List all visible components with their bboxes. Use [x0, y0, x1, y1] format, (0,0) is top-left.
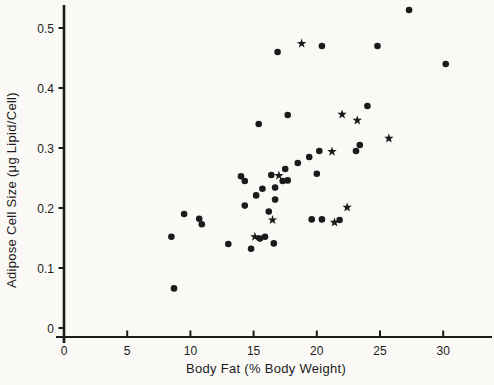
y-axis-title: Adipose Cell Size (μg Lipid/Cell)	[4, 92, 19, 288]
data-point-circle	[242, 178, 249, 185]
data-point-star	[342, 202, 352, 211]
data-point-circle	[353, 148, 360, 155]
x-axis-ticks: 051015202530	[61, 331, 451, 359]
data-point-circle	[314, 171, 321, 178]
x-tick-label: 30	[437, 344, 451, 358]
data-point-circle	[284, 177, 291, 184]
data-point-circle	[319, 216, 326, 223]
data-point-circle	[284, 112, 291, 119]
y-axis-ticks: 00.10.20.30.40.5	[37, 22, 64, 336]
data-point-star	[352, 115, 362, 124]
x-axis-title: Body Fat (% Body Weight)	[186, 361, 346, 376]
data-point-circle	[266, 208, 273, 215]
y-tick-label: 0.4	[37, 82, 54, 96]
data-point-circle	[406, 7, 413, 14]
data-point-star	[297, 39, 307, 48]
y-tick-label: 0.1	[37, 262, 54, 276]
data-points	[168, 7, 449, 292]
data-point-circle	[259, 186, 266, 193]
data-point-circle	[308, 216, 315, 223]
data-point-circle	[253, 192, 260, 199]
x-tick-label: 5	[124, 344, 131, 358]
data-point-circle	[171, 285, 178, 292]
data-point-circle	[272, 196, 279, 203]
scatter-plot: 00.10.20.30.40.5 051015202530 Body Fat (…	[0, 0, 494, 385]
data-point-circle	[319, 43, 326, 50]
figure-page: 00.10.20.30.40.5 051015202530 Body Fat (…	[0, 0, 494, 385]
data-point-circle	[442, 61, 449, 68]
data-point-circle	[268, 172, 275, 179]
x-tick-label: 20	[310, 344, 324, 358]
y-tick-label: 0.3	[37, 142, 54, 156]
x-tick-label: 0	[61, 344, 68, 358]
data-point-circle	[181, 211, 188, 218]
data-point-star	[327, 147, 337, 156]
x-tick-label: 10	[184, 344, 198, 358]
y-tick-label: 0.5	[37, 22, 54, 36]
data-point-circle	[262, 234, 269, 241]
data-point-circle	[364, 103, 371, 110]
data-point-circle	[282, 166, 289, 173]
data-point-star	[384, 133, 394, 142]
data-point-circle	[168, 234, 175, 241]
data-point-circle	[272, 184, 279, 191]
y-tick-label: 0	[47, 322, 54, 336]
data-point-star	[337, 109, 347, 118]
x-tick-label: 15	[247, 344, 261, 358]
data-point-circle	[295, 160, 302, 167]
data-point-star	[268, 215, 278, 224]
data-point-circle	[274, 49, 281, 56]
data-point-circle	[306, 154, 313, 161]
data-point-circle	[255, 121, 262, 128]
data-point-circle	[316, 148, 323, 155]
data-point-circle	[225, 241, 232, 248]
data-point-circle	[357, 142, 364, 149]
data-point-circle	[374, 43, 381, 50]
data-point-circle	[248, 246, 255, 253]
x-tick-label: 25	[373, 344, 387, 358]
data-point-circle	[199, 221, 206, 228]
data-point-circle	[271, 240, 278, 247]
y-tick-label: 0.2	[37, 202, 54, 216]
data-point-circle	[242, 202, 249, 209]
